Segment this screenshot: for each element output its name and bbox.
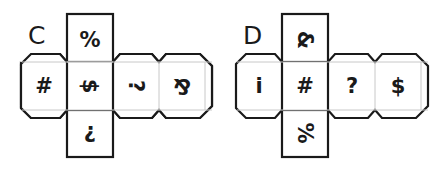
net-d-bottom-symbol: %	[293, 122, 317, 143]
net-d-label: D	[243, 21, 262, 50]
net-c-center-symbol: $	[78, 79, 102, 94]
net-c-right1-symbol: ?	[124, 80, 148, 92]
net-c: C % # $ ? & ?	[21, 14, 212, 157]
net-d-right1-symbol: ?	[346, 74, 358, 98]
net-d: D & i # ? $ %	[236, 14, 428, 157]
net-d-right2-symbol: $	[391, 74, 406, 98]
net-d-center-symbol: #	[296, 74, 314, 98]
net-c-right2-symbol: &	[173, 74, 191, 98]
net-d-left-symbol: i	[255, 74, 262, 98]
cube-nets-diagram: C % # $ ? & ? D	[0, 0, 441, 169]
net-d-top-symbol: &	[293, 31, 317, 49]
net-c-top-symbol: %	[79, 28, 100, 52]
net-c-left-symbol: #	[35, 74, 53, 98]
net-c-label: C	[28, 21, 45, 50]
net-c-bottom-symbol: ?	[84, 121, 96, 145]
